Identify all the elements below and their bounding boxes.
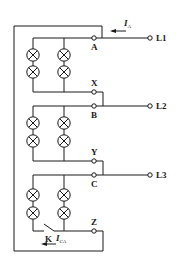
label-l2: L2 bbox=[156, 101, 167, 111]
terminal-c bbox=[92, 173, 96, 177]
circuit-diagram: A X B Y C Z L1 L2 L3 K IA ICA bbox=[0, 0, 180, 277]
lamp-icon bbox=[27, 66, 39, 78]
terminal-a bbox=[92, 36, 96, 40]
lamp-icon bbox=[58, 117, 70, 129]
terminal-b bbox=[92, 104, 96, 108]
lamp-icon bbox=[58, 66, 70, 78]
terminal-z bbox=[92, 229, 96, 233]
label-l1: L1 bbox=[156, 33, 167, 43]
label-l3: L3 bbox=[156, 170, 167, 180]
current-ica-label: ICA bbox=[55, 233, 67, 244]
current-ia-label: IA bbox=[123, 18, 132, 29]
terminal-x bbox=[92, 90, 96, 94]
label-z: Z bbox=[91, 217, 97, 227]
label-x: X bbox=[91, 78, 98, 88]
label-k: K bbox=[45, 234, 52, 244]
terminal-l3 bbox=[148, 173, 152, 177]
terminal-l1 bbox=[148, 36, 152, 40]
lamp-icon bbox=[27, 207, 39, 219]
label-y: Y bbox=[91, 147, 98, 157]
lamp-icon bbox=[58, 135, 70, 147]
terminal-y bbox=[92, 159, 96, 163]
lamp-icon bbox=[58, 49, 70, 61]
lamp-icon bbox=[58, 207, 70, 219]
lamp-icon bbox=[27, 49, 39, 61]
lamp-icon bbox=[27, 117, 39, 129]
lamp-icon bbox=[58, 189, 70, 201]
terminal-l2 bbox=[148, 104, 152, 108]
switch-k bbox=[44, 224, 54, 231]
lamp-icon bbox=[27, 135, 39, 147]
label-a: A bbox=[91, 42, 98, 52]
label-b: B bbox=[91, 110, 97, 120]
label-c: C bbox=[91, 179, 98, 189]
lamp-icon bbox=[27, 189, 39, 201]
